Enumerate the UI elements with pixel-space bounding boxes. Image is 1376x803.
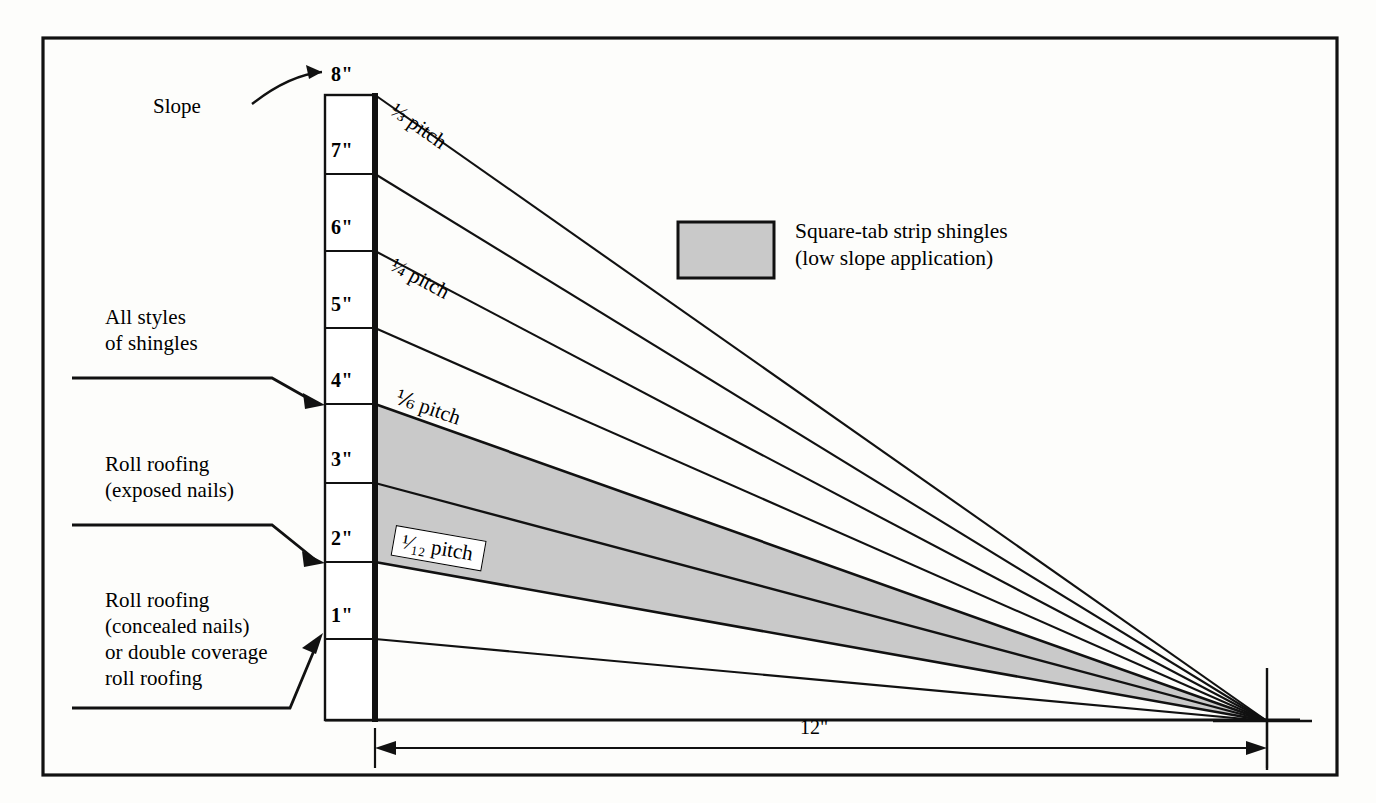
- rise-tick-8: 8": [331, 63, 353, 86]
- rise-tick-1: 1": [331, 604, 353, 627]
- leader-roll-exposed: [72, 525, 318, 562]
- pitch-line-group: [375, 95, 1267, 721]
- callout-all-styles-line-1: All styles: [105, 305, 186, 329]
- callout-roll-concealed-line-2: (concealed nails): [105, 614, 250, 638]
- run-dimension-label: 12": [800, 716, 828, 739]
- pitch-line-3: [375, 483, 1267, 721]
- rise-scale-column: [325, 93, 375, 722]
- rise-tick-6: 6": [331, 216, 353, 239]
- outer-frame: [43, 38, 1337, 775]
- legend-line-1: Square-tab strip shingles: [795, 218, 1008, 244]
- rise-tick-5: 5": [331, 293, 353, 316]
- rise-tick-3: 3": [331, 448, 353, 471]
- rise-tick-4: 4": [331, 369, 353, 392]
- callout-roll-concealed-line-3: or double coverage: [105, 640, 268, 664]
- slope-arrow: [252, 65, 322, 104]
- legend-line-2: (low slope application): [795, 245, 993, 271]
- roof-slope-diagram: [0, 0, 1376, 803]
- diagram-page: Slope 8" 7" 6" 5" 4" 3" 2" 1" ⅓ pitch ¼ …: [0, 0, 1376, 803]
- legend-swatch: [678, 222, 774, 278]
- callout-roll-concealed-line-1: Roll roofing: [105, 588, 209, 612]
- callout-roll-exposed-line-1: Roll roofing: [105, 452, 209, 476]
- callout-roll-concealed-line-4: roll roofing: [105, 666, 202, 690]
- slope-caption: Slope: [153, 94, 201, 118]
- callout-roll-exposed-line-2: (exposed nails): [105, 478, 234, 502]
- rise-tick-7: 7": [331, 139, 353, 162]
- leader-all-styles: [72, 378, 318, 404]
- callout-all-styles-line-2: of shingles: [105, 331, 198, 355]
- rise-tick-2: 2": [331, 527, 353, 550]
